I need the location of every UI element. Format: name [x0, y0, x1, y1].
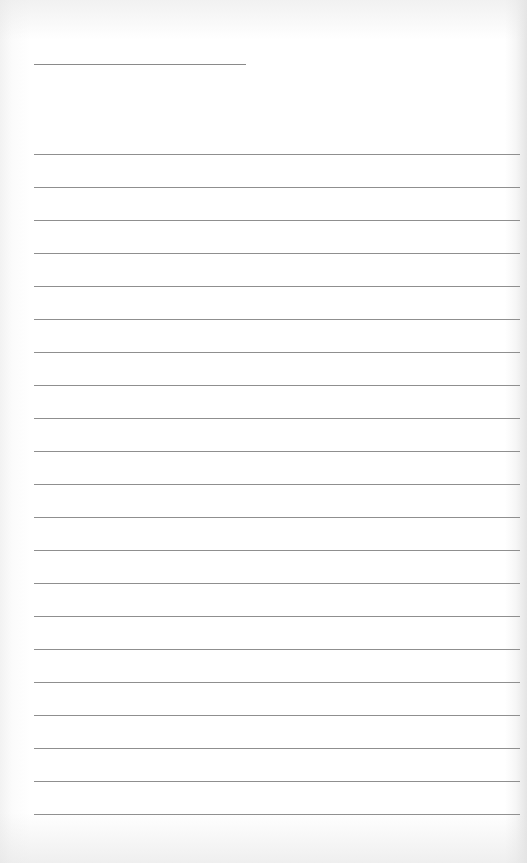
ruled-line: [34, 814, 520, 815]
ruled-line: [34, 715, 520, 716]
ruled-line: [34, 781, 520, 782]
lined-paper-page: [0, 0, 527, 863]
ruled-line: [34, 583, 520, 584]
ruled-line: [34, 385, 520, 386]
ruled-line: [34, 319, 520, 320]
header-name-line: [34, 64, 246, 65]
ruled-line: [34, 484, 520, 485]
ruled-line: [34, 451, 520, 452]
ruled-line: [34, 649, 520, 650]
ruled-line: [34, 517, 520, 518]
ruled-line: [34, 286, 520, 287]
ruled-line: [34, 418, 520, 419]
ruled-line: [34, 550, 520, 551]
ruled-line: [34, 154, 520, 155]
ruled-line: [34, 748, 520, 749]
ruled-line: [34, 220, 520, 221]
ruled-line: [34, 352, 520, 353]
ruled-line: [34, 682, 520, 683]
ruled-line: [34, 187, 520, 188]
ruled-line: [34, 616, 520, 617]
ruled-line: [34, 253, 520, 254]
